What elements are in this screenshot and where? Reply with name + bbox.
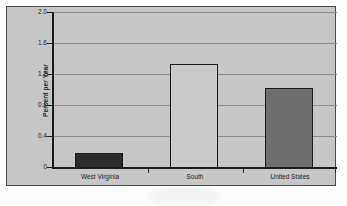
bar-west-virginia[interactable] xyxy=(75,153,123,168)
bar-series xyxy=(53,12,337,168)
bar-united-states[interactable] xyxy=(265,88,313,168)
y-axis-title-container: Percent per Year xyxy=(31,37,45,137)
x-label-united-states: United States xyxy=(243,173,337,181)
x-axis-category-labels: West Virginia South United States xyxy=(53,173,337,187)
x-label-south: South xyxy=(148,173,242,181)
chart-panel: 2.0 1.6 1.2 0.8 0.4 0 Percent per Year xyxy=(6,6,336,186)
page-background: 2.0 1.6 1.2 0.8 0.4 0 Percent per Year xyxy=(0,0,347,206)
bar-south[interactable] xyxy=(170,64,218,168)
y-tick-label-0: 0 xyxy=(25,164,47,171)
scan-artifact xyxy=(150,188,220,204)
x-label-west-virginia: West Virginia xyxy=(53,173,147,181)
y-axis-title: Percent per Year xyxy=(42,55,49,127)
y-tick-label-5: 2.0 xyxy=(25,9,47,16)
